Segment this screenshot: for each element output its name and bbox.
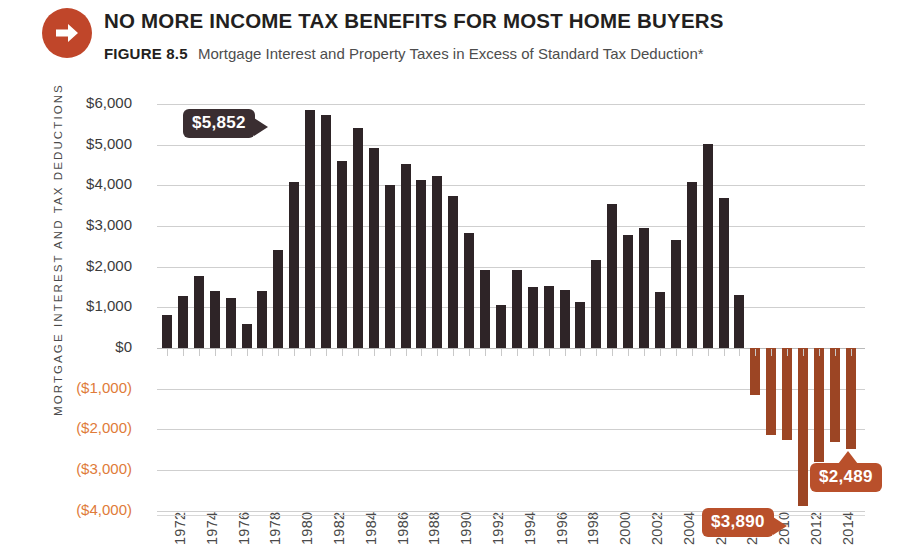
value-callout: $5,852	[183, 109, 255, 138]
y-axis-tick: $6,000	[28, 94, 132, 111]
y-axis-tick: $4,000	[28, 175, 132, 192]
bar	[337, 161, 347, 348]
bar	[719, 198, 729, 348]
callout-pointer	[254, 118, 268, 136]
x-axis-tick: 1978	[267, 512, 283, 545]
x-axis-tick: 1976	[236, 512, 252, 545]
bar	[703, 144, 713, 348]
bar	[226, 298, 236, 348]
bar	[242, 324, 252, 348]
y-axis-tick-labels: $6,000$5,000$4,000$3,000$2,000$1,000$0($…	[28, 0, 132, 545]
bar	[178, 296, 188, 348]
x-axis-tick: 1998	[585, 512, 601, 545]
y-axis-tick: $1,000	[28, 297, 132, 314]
bar	[162, 315, 172, 348]
x-axis-tick: 1972	[172, 512, 188, 545]
bar	[575, 302, 585, 348]
bar	[655, 292, 665, 348]
y-axis-tick: $0	[28, 338, 132, 355]
bar	[416, 180, 426, 348]
bar	[623, 235, 633, 348]
x-axis-tick: 2012	[808, 512, 824, 545]
bar	[607, 204, 617, 348]
x-axis-tick: 2002	[649, 512, 665, 545]
x-axis-tick: 1974	[204, 512, 220, 545]
bar	[353, 128, 363, 348]
x-axis-tick: 1988	[426, 512, 442, 545]
bar	[687, 182, 697, 348]
value-callout: $3,890	[702, 508, 774, 537]
x-axis-tick: 1990	[458, 512, 474, 545]
y-axis-tick: ($4,000)	[28, 501, 132, 518]
bar	[385, 185, 395, 348]
bar	[734, 295, 744, 348]
bar	[432, 176, 442, 348]
bar	[512, 270, 522, 348]
bar	[639, 228, 649, 348]
y-axis-tick: ($1,000)	[28, 379, 132, 396]
x-axis-tick: 1982	[331, 512, 347, 545]
bar	[401, 164, 411, 348]
bar	[528, 287, 538, 348]
y-axis-tick: $3,000	[28, 216, 132, 233]
bar	[210, 291, 220, 348]
x-axis-tick: 1986	[395, 512, 411, 545]
x-axis-tick: 2000	[617, 512, 633, 545]
bar	[464, 233, 474, 348]
bar	[480, 270, 490, 348]
bar	[305, 110, 315, 348]
x-axis-tick: 1984	[363, 512, 379, 545]
bar	[273, 250, 283, 348]
value-callout: $2,489	[810, 463, 882, 492]
y-axis-tick: ($3,000)	[28, 460, 132, 477]
y-axis-tick: ($2,000)	[28, 419, 132, 436]
bar	[591, 260, 601, 348]
y-axis-tick: $2,000	[28, 257, 132, 274]
bar	[448, 196, 458, 348]
y-axis-tick: $5,000	[28, 135, 132, 152]
callout-pointer	[838, 451, 858, 464]
bar	[671, 240, 681, 348]
x-axis-tick: 1992	[490, 512, 506, 545]
x-axis-tick: 1980	[299, 512, 315, 545]
callout-pointer	[773, 517, 787, 535]
bar	[321, 115, 331, 348]
callout-label: $3,890	[711, 512, 765, 531]
x-axis-tick: 1996	[554, 512, 570, 545]
bar	[496, 305, 506, 348]
x-axis-tick: 2004	[681, 512, 697, 545]
x-axis-tick: 2014	[840, 512, 856, 545]
bar	[257, 291, 267, 348]
callout-label: $2,489	[819, 467, 873, 486]
callout-label: $5,852	[192, 113, 246, 132]
bar	[289, 182, 299, 348]
bar	[194, 276, 204, 348]
bar	[560, 290, 570, 348]
chart-container: MORTGAGE INTEREST AND TAX DEDUCTIONS $6,…	[0, 0, 921, 545]
bar	[369, 148, 379, 348]
x-axis-tick: 1994	[522, 512, 538, 545]
bar	[544, 286, 554, 348]
